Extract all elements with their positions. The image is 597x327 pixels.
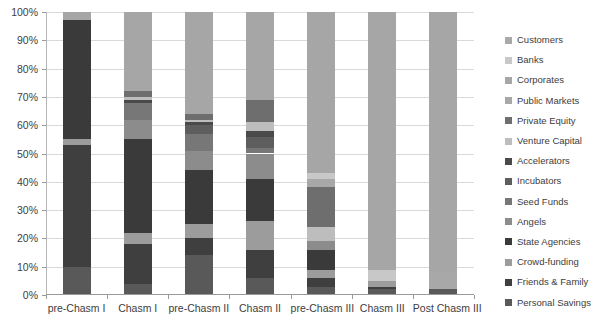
- legend-item[interactable]: Incubators: [505, 171, 597, 191]
- legend-item[interactable]: Seed Funds: [505, 192, 597, 212]
- bar-segment[interactable]: [185, 122, 213, 125]
- bar-segment[interactable]: [246, 148, 274, 154]
- stacked-bar[interactable]: [124, 12, 152, 295]
- bar-group[interactable]: [307, 12, 335, 295]
- legend-item[interactable]: Private Equity: [505, 111, 597, 131]
- legend-item[interactable]: Corporates: [505, 70, 597, 90]
- x-axis-tick-mark: [229, 295, 230, 299]
- x-axis-tick-mark: [352, 295, 353, 299]
- legend-swatch-icon: [505, 57, 512, 64]
- bar-group[interactable]: [368, 12, 396, 295]
- bar-segment[interactable]: [63, 12, 91, 20]
- bar-segment[interactable]: [246, 122, 274, 130]
- legend-item[interactable]: Angels: [505, 212, 597, 232]
- bar-segment[interactable]: [63, 145, 91, 267]
- legend-label: Friends & Family: [517, 277, 588, 287]
- legend-label: Angels: [517, 217, 546, 227]
- legend-item[interactable]: Personal Savings: [505, 292, 597, 312]
- bar-segment[interactable]: [124, 233, 152, 244]
- bar-group[interactable]: [63, 12, 91, 295]
- bar-segment[interactable]: [307, 278, 335, 286]
- legend-swatch-icon: [505, 238, 512, 245]
- bar-segment[interactable]: [124, 91, 152, 97]
- bar-segment[interactable]: [307, 173, 335, 179]
- bar-segment[interactable]: [124, 100, 152, 103]
- bar-segment[interactable]: [63, 139, 91, 145]
- bar-segment[interactable]: [246, 12, 274, 100]
- bar-segment[interactable]: [124, 103, 152, 120]
- x-axis-tick-label: Post Chasm III: [413, 302, 474, 314]
- bar-segment[interactable]: [185, 125, 213, 133]
- bar-segment[interactable]: [368, 281, 396, 287]
- bar-segment[interactable]: [307, 270, 335, 278]
- legend-item[interactable]: Customers: [505, 30, 597, 50]
- bar-segment[interactable]: [63, 20, 91, 139]
- bar-segment[interactable]: [429, 272, 457, 289]
- bar-group[interactable]: [124, 12, 152, 295]
- x-axis-tick-label: Chasm I: [107, 302, 168, 314]
- bar-segment[interactable]: [429, 12, 457, 272]
- bar-segment[interactable]: [246, 250, 274, 278]
- legend-swatch-icon: [505, 279, 512, 286]
- bar-segment[interactable]: [185, 134, 213, 151]
- bar-segment[interactable]: [246, 100, 274, 123]
- bar-segment[interactable]: [368, 287, 396, 290]
- bar-segment[interactable]: [368, 270, 396, 281]
- bar-segment[interactable]: [185, 255, 213, 295]
- plot-area: [46, 12, 474, 295]
- legend-item[interactable]: Friends & Family: [505, 272, 597, 292]
- bar-segment[interactable]: [307, 250, 335, 270]
- bar-group[interactable]: [185, 12, 213, 295]
- bar-group[interactable]: [429, 12, 457, 295]
- bar-segment[interactable]: [307, 12, 335, 173]
- y-axis-tick-label: 20%: [17, 233, 38, 244]
- bar-segment[interactable]: [307, 227, 335, 241]
- bar-group[interactable]: [246, 12, 274, 295]
- bar-segment[interactable]: [246, 154, 274, 179]
- bar-segment[interactable]: [185, 170, 213, 224]
- bar-segment[interactable]: [307, 187, 335, 227]
- bar-segment[interactable]: [63, 267, 91, 295]
- bar-segment[interactable]: [368, 12, 396, 270]
- legend-item[interactable]: Accelerators: [505, 151, 597, 171]
- bar-segment[interactable]: [185, 120, 213, 123]
- legend-item[interactable]: Public Markets: [505, 91, 597, 111]
- chart-screenshot: 0%10%20%30%40%50%60%70%80%90%100% pre-Ch…: [0, 0, 597, 327]
- stacked-bar[interactable]: [307, 12, 335, 295]
- bar-segment[interactable]: [246, 179, 274, 221]
- legend-swatch-icon: [505, 178, 512, 185]
- bar-segment[interactable]: [124, 120, 152, 140]
- stacked-bar[interactable]: [368, 12, 396, 295]
- bar-segment[interactable]: [185, 114, 213, 120]
- y-axis-tick-label: 40%: [17, 176, 38, 187]
- bar-segment[interactable]: [185, 224, 213, 238]
- bar-segment[interactable]: [185, 151, 213, 171]
- bar-segment[interactable]: [124, 139, 152, 232]
- legend-swatch-icon: [505, 158, 512, 165]
- bar-segment[interactable]: [124, 97, 152, 100]
- bar-segment[interactable]: [246, 221, 274, 249]
- legend-swatch-icon: [505, 259, 512, 266]
- stacked-bar[interactable]: [63, 12, 91, 295]
- bar-segment[interactable]: [124, 244, 152, 284]
- legend-swatch-icon: [505, 138, 512, 145]
- y-axis-tick-label: 50%: [17, 148, 38, 159]
- legend-item[interactable]: Banks: [505, 50, 597, 70]
- legend-item[interactable]: Venture Capital: [505, 131, 597, 151]
- bar-segment[interactable]: [246, 137, 274, 148]
- bar-segment[interactable]: [307, 179, 335, 187]
- stacked-bar[interactable]: [185, 12, 213, 295]
- legend-item[interactable]: State Agencies: [505, 232, 597, 252]
- y-axis-tick-label: 90%: [17, 35, 38, 46]
- bar-segment[interactable]: [185, 12, 213, 114]
- chart-legend: CustomersBanksCorporatesPublic MarketsPr…: [505, 30, 597, 313]
- stacked-bar[interactable]: [246, 12, 274, 295]
- bar-segment[interactable]: [246, 131, 274, 137]
- y-axis-line: [46, 12, 47, 295]
- stacked-bar[interactable]: [429, 12, 457, 295]
- bar-segment[interactable]: [185, 238, 213, 255]
- bar-segment[interactable]: [307, 241, 335, 249]
- bar-segment[interactable]: [124, 12, 152, 91]
- legend-item[interactable]: Crowd-funding: [505, 252, 597, 272]
- bar-segment[interactable]: [246, 278, 274, 295]
